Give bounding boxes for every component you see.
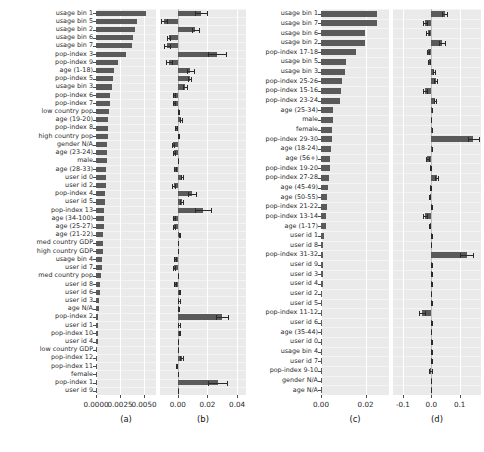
row-gridline [160,346,246,347]
x-axis-tick-label: -0.1 [396,400,410,409]
y-axis-tick [93,235,96,236]
row-gridline [393,183,481,184]
bar [96,167,106,172]
y-axis-tick-label: user id 2 [65,182,93,189]
error-bar [192,30,199,31]
y-axis-tick-label: pop-index 11 [51,363,93,370]
bar [321,175,329,181]
figure-root: usage bin 1usage bin 5usage bin 2usage b… [0,0,484,452]
error-cap [175,266,176,271]
y-axis-tick-label: pop-index 10 [51,330,93,337]
row-gridline [393,115,481,116]
bar [321,69,345,75]
x-axis-tick [178,395,179,398]
error-cap [426,31,427,36]
y-axis-tick-label: usage bin 3 [281,68,318,75]
y-axis-tick [93,38,96,39]
y-axis-tick-label: user id 4 [65,338,93,345]
bar [96,27,135,32]
error-cap [175,225,176,230]
y-axis-tick [93,177,96,178]
row-gridline [160,280,246,281]
row-gridline [321,192,389,193]
row-gridline [160,116,246,117]
row-gridline [96,239,156,240]
y-axis-tick-label: usage bin 4 [56,256,93,263]
row-gridline [96,198,156,199]
row-gridline [160,173,246,174]
bar [96,60,118,65]
x-axis-tick [207,395,208,398]
row-gridline [160,91,246,92]
y-axis-tick-label: age N/A [293,387,318,394]
y-axis-tick [93,87,96,88]
y-axis-tick [93,169,96,170]
y-axis-tick-label: med country GDP [37,239,93,246]
error-cap [195,11,196,16]
error-cap [432,108,433,113]
y-axis-tick [318,381,321,382]
error-cap [180,233,181,238]
row-gridline [160,99,246,100]
row-gridline [160,288,246,289]
error-cap [178,274,179,279]
y-axis-tick-label: pop-index 7 [55,100,93,107]
y-axis-tick [318,303,321,304]
error-cap [195,208,196,213]
y-axis-tick-label: usage bin 5 [281,58,318,65]
row-gridline [160,206,246,207]
error-cap [426,157,427,162]
row-gridline [393,260,481,261]
y-axis-tick [318,245,321,246]
error-cap [180,356,181,361]
y-axis-tick [318,255,321,256]
error-bar [188,194,196,195]
y-axis-tick [93,161,96,162]
bar [96,126,108,131]
y-axis-tick [93,350,96,351]
error-cap [431,292,432,297]
bar [96,199,105,204]
x-axis-tick [321,395,322,398]
y-axis-tick-label: age (23-24) [56,149,94,156]
error-cap [425,311,426,316]
x-axis-tick-label: 0.02 [358,400,374,409]
error-cap [183,200,184,205]
y-axis-tick-label: user id 5 [290,300,318,307]
y-axis-tick-label: usage bin 2 [281,39,318,46]
bar [321,185,328,191]
bar [96,347,97,352]
y-axis-tick-label: pop-index 23-24 [266,97,318,104]
row-gridline [321,144,389,145]
y-axis-tick [93,71,96,72]
y-axis-tick [318,342,321,343]
row-gridline [321,202,389,203]
row-gridline [321,385,389,386]
row-gridline [321,173,389,174]
y-axis-tick [318,14,321,15]
bar [96,93,110,98]
row-gridline [96,272,156,273]
bar [96,306,99,311]
y-axis-tick [318,274,321,275]
error-cap [170,44,171,49]
y-axis-tick-label: user id 6 [290,319,318,326]
y-axis-tick [318,159,321,160]
row-gridline [160,108,246,109]
x-axis-tick [96,395,97,398]
y-axis-tick [93,30,96,31]
row-gridline [321,270,389,271]
row-gridline [160,247,246,248]
error-cap [432,263,433,268]
row-gridline [321,212,389,213]
row-gridline [160,83,246,84]
error-cap [180,331,181,336]
error-cap [173,101,174,106]
bar [321,30,365,36]
bar [321,20,377,26]
row-gridline [160,329,246,330]
row-gridline [160,272,246,273]
error-bar [187,71,194,72]
bar [321,194,327,200]
error-cap [173,151,174,156]
